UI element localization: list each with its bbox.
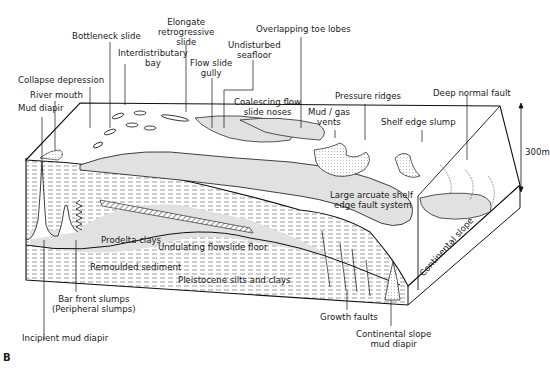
label-undisturbed-seafloor: Undisturbed seafloor [228,40,281,60]
label-line: Undisturbed [228,40,281,50]
label-line: mud diapir [356,339,431,349]
scale-bar-label: 300m [525,147,550,157]
label-line: retrogressive [158,27,214,37]
label-bar-front-slumps: Bar front slumps (Peripheral slumps) [52,294,136,314]
label-pleistocene-silts-and-clays: Pleistocene silts and clays [178,275,291,285]
label-deep-normal-fault: Deep normal fault [433,88,511,98]
label-line: Bar front slumps [52,294,136,304]
label-large-arcuate-shelf-edge-fault-system: Large arcuate shelf edge fault system [330,190,413,210]
scale-bar [519,103,523,192]
label-interdistributary-bay: Interdistributary bay [118,48,188,68]
label-mud-diapir: Mud diapir [18,103,64,113]
label-remoulded-sediment: Remoulded sediment [90,262,181,272]
label-pressure-ridges: Pressure ridges [335,91,401,101]
label-line: slide noses [234,107,301,117]
label-line: bay [118,58,188,68]
label-line: slide [158,37,214,47]
label-incipient-mud-diapir: Incipient mud diapir [22,333,108,343]
label-prodelta-clays: Prodelta clays [101,235,161,245]
label-coalescing-flow-slide-noses: Coalescing flow slide noses [234,97,301,117]
label-line: edge fault system [330,200,413,210]
label-mud-gas-vents: Mud / gas vents [308,107,350,127]
label-shelf-edge-slump: Shelf edge slump [381,117,456,127]
label-growth-faults: Growth faults [320,312,378,322]
label-line: seafloor [228,50,281,60]
label-line: Interdistributary [118,48,188,58]
label-line: vents [308,117,350,127]
label-line: Large arcuate shelf [330,190,413,200]
label-flow-slide-gully: Flow slide gully [190,58,232,78]
label-undulating-flowslide-floor: Undulating flowslide floor [158,242,268,252]
label-line: (Peripheral slumps) [52,304,136,314]
label-collapse-depression: Collapse depression [18,75,104,85]
label-continental-slope-mud-diapir: Continental slope mud diapir [356,329,431,349]
label-line: Flow slide [190,58,232,68]
label-river-mouth: River mouth [30,90,83,100]
label-elongate-retrogressive-slide: Elongate retrogressive slide [158,17,214,47]
label-line: gully [190,68,232,78]
label-bottleneck-slide: Bottleneck slide [72,31,141,41]
label-line: Elongate [158,17,214,27]
label-line: Continental slope [356,329,431,339]
panel-letter: B [3,352,11,363]
label-line: Mud / gas [308,107,350,117]
label-overlapping-toe-lobes: Overlapping toe lobes [256,24,351,34]
label-line: Coalescing flow [234,97,301,107]
